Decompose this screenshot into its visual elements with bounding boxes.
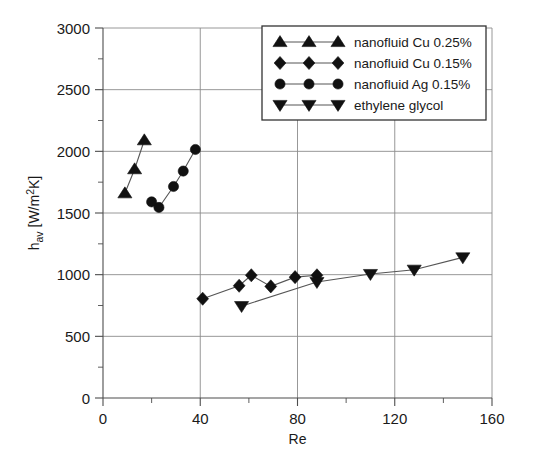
y-tick-label: 0 — [82, 390, 90, 407]
legend-entry-label: nanofluid Ag 0.15% — [354, 77, 470, 92]
x-axis-title: Re — [289, 431, 307, 447]
x-tick-label: 160 — [479, 410, 504, 427]
legend-marker-circle — [275, 79, 285, 89]
x-tick-label: 40 — [192, 410, 209, 427]
y-tick-label: 500 — [65, 328, 90, 345]
x-tick-label: 120 — [382, 410, 407, 427]
legend-marker-circle — [304, 79, 314, 89]
data-point-marker — [190, 144, 200, 154]
legend-entry-label: ethylene glycol — [354, 98, 443, 113]
data-point-marker — [168, 181, 178, 191]
x-tick-label: 80 — [289, 410, 306, 427]
chart-figure: 050010001500200025003000 04080120160 Re … — [0, 0, 542, 475]
chart-legend: nanofluid Cu 0.25%nanofluid Cu 0.15%nano… — [262, 26, 486, 120]
data-point-marker — [178, 166, 188, 176]
legend-marker-circle — [333, 79, 343, 89]
x-tick-label: 0 — [99, 410, 107, 427]
y-tick-label: 2500 — [57, 81, 90, 98]
legend-entry-label: nanofluid Cu 0.15% — [354, 56, 472, 71]
y-tick-label: 1500 — [57, 205, 90, 222]
data-point-marker — [154, 202, 164, 212]
y-tick-label: 2000 — [57, 143, 90, 160]
chart-canvas: 050010001500200025003000 04080120160 Re … — [0, 0, 542, 475]
y-tick-label: 1000 — [57, 266, 90, 283]
legend-entry-label: nanofluid Cu 0.25% — [354, 35, 472, 50]
y-tick-label: 3000 — [57, 20, 90, 37]
